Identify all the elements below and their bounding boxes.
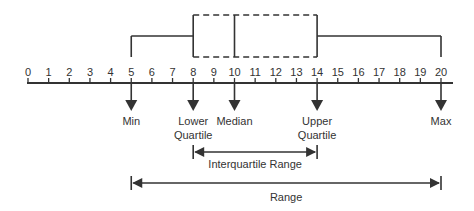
arrow-down-icon <box>435 100 447 111</box>
tick-label: 18 <box>394 66 406 78</box>
tick-label: 1 <box>46 66 52 78</box>
arrow-right-icon <box>306 147 316 157</box>
span-label-interquartile-range: Interquartile Range <box>208 158 302 170</box>
tick-label: 0 <box>25 66 31 78</box>
tick-label: 3 <box>87 66 93 78</box>
arrow-left-icon <box>132 178 142 188</box>
tick-label: 2 <box>66 66 72 78</box>
tick-label: 20 <box>435 66 447 78</box>
marker-label-lower-quartile: Lower <box>178 115 208 127</box>
marker-label-lower-quartile: Quartile <box>174 129 213 141</box>
tick-label: 6 <box>149 66 155 78</box>
tick-label: 15 <box>332 66 344 78</box>
marker-label-upper-quartile: Upper <box>302 115 332 127</box>
arrow-right-icon <box>430 178 440 188</box>
tick-label: 8 <box>190 66 196 78</box>
tick-label: 13 <box>290 66 302 78</box>
box-plot-diagram: 01234567891011121314151617181920 MinLowe… <box>0 0 474 211</box>
tick-label: 4 <box>108 66 114 78</box>
tick-label: 14 <box>311 66 323 78</box>
tick-label: 12 <box>270 66 282 78</box>
arrow-down-icon <box>229 100 241 111</box>
tick-label: 5 <box>128 66 134 78</box>
tick-label: 16 <box>352 66 364 78</box>
tick-label: 17 <box>373 66 385 78</box>
span-label-range: Range <box>270 191 302 203</box>
marker-label-min: Min <box>122 115 140 127</box>
marker-label-median: Median <box>216 115 252 127</box>
tick-label: 11 <box>249 66 260 78</box>
arrow-left-icon <box>194 147 204 157</box>
box-and-whiskers <box>131 15 441 57</box>
tick-label: 7 <box>169 66 175 78</box>
marker-label-upper-quartile: Quartile <box>298 129 337 141</box>
arrow-down-icon <box>187 100 199 111</box>
range-spans: Interquartile RangeRange <box>131 145 441 203</box>
tick-label: 10 <box>228 66 240 78</box>
marker-label-max: Max <box>431 115 452 127</box>
arrow-down-icon <box>311 100 323 111</box>
tick-label: 9 <box>211 66 217 78</box>
tick-label: 19 <box>414 66 426 78</box>
arrow-down-icon <box>125 100 137 111</box>
number-line: 01234567891011121314151617181920 <box>25 66 453 83</box>
box-plot-svg: 01234567891011121314151617181920 MinLowe… <box>0 0 474 211</box>
marker-arrows: MinLowerQuartileMedianUpperQuartileMax <box>122 83 452 141</box>
